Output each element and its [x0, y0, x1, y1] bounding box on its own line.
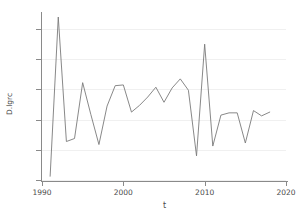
x-tick-label: 2000: [103, 188, 143, 197]
y-tick-mark: [36, 29, 41, 30]
y-axis-title: D.lgrc: [14, 14, 23, 74]
plot-area: [42, 14, 286, 180]
y-tick-mark: [36, 89, 41, 90]
chart-figure: -.4-.20.2.4.6 1990200020102020 D.lgrc t: [0, 0, 306, 222]
x-tick-mark: [123, 182, 124, 186]
y-axis-line: [41, 12, 42, 182]
x-tick-label: 2020: [266, 188, 306, 197]
x-tick-label: 2010: [185, 188, 225, 197]
y-tick-mark: [36, 120, 41, 121]
x-tick-label: 1990: [22, 188, 62, 197]
x-tick-mark: [42, 182, 43, 186]
series-line-D-lgrc: [50, 17, 270, 176]
y-tick-mark: [36, 59, 41, 60]
x-axis-line: [41, 181, 288, 182]
series-line-chart: [42, 14, 286, 180]
x-tick-mark: [286, 182, 287, 186]
x-tick-mark: [205, 182, 206, 186]
y-tick-mark: [36, 180, 41, 181]
y-axis-title-text: D.lgrc: [5, 74, 14, 134]
x-axis-title: t: [41, 201, 288, 211]
y-tick-mark: [36, 150, 41, 151]
